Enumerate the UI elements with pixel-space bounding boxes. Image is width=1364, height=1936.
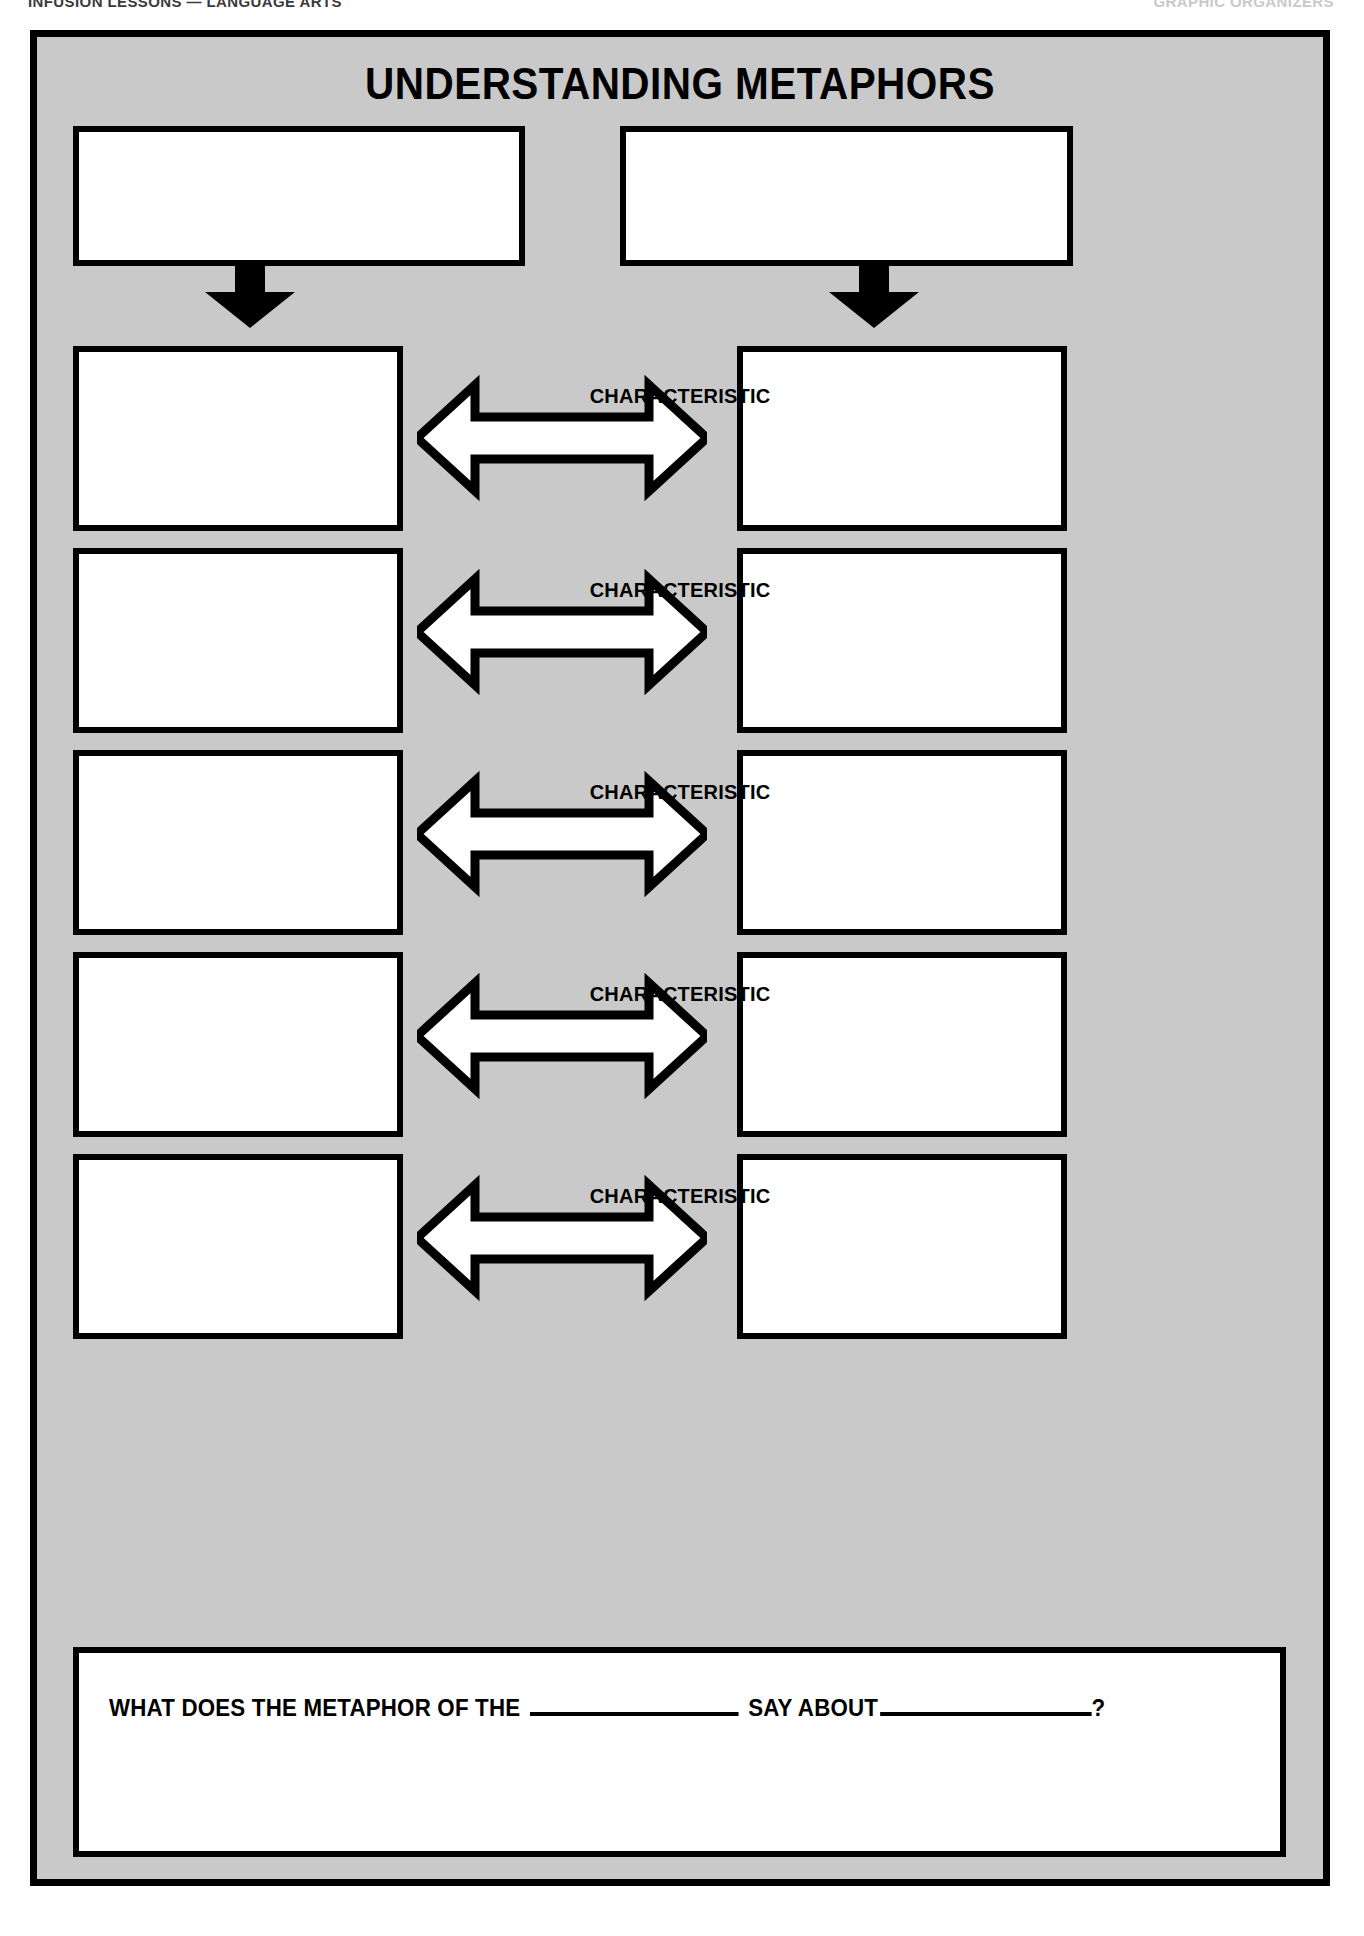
characteristic-connector-1 [417, 371, 707, 506]
running-header-left: INFUSION LESSONS — LANGUAGE ARTS [28, 0, 342, 10]
question-blank-1[interactable] [530, 1711, 739, 1716]
page-title: UNDERSTANDING METAPHORS [88, 59, 1271, 109]
characteristic-connector-4 [417, 969, 707, 1104]
characteristic-connector-3 [417, 767, 707, 902]
question-blank-2[interactable] [880, 1711, 1091, 1716]
characteristic-box-left-3[interactable] [73, 750, 403, 935]
arrow-down-right-icon [829, 266, 919, 328]
running-header: INFUSION LESSONS — LANGUAGE ARTS GRAPHIC… [0, 0, 1364, 14]
characteristic-box-right-3[interactable] [737, 750, 1067, 935]
characteristic-box-left-5[interactable] [73, 1154, 403, 1339]
characteristic-connector-5 [417, 1171, 707, 1306]
question-text-part1: WHAT DOES THE METAPHOR OF THE [109, 1695, 520, 1722]
summary-question-box[interactable]: WHAT DOES THE METAPHOR OF THE SAY ABOUT … [73, 1647, 1286, 1857]
worksheet-panel: UNDERSTANDING METAPHORS CHARACTERISTIC C… [30, 30, 1330, 1886]
characteristic-box-right-5[interactable] [737, 1154, 1067, 1339]
characteristic-connector-2 [417, 565, 707, 700]
characteristic-box-right-4[interactable] [737, 952, 1067, 1137]
top-box-left[interactable] [73, 126, 525, 266]
characteristic-box-right-1[interactable] [737, 346, 1067, 531]
arrow-down-left-icon [205, 266, 295, 328]
characteristic-box-left-4[interactable] [73, 952, 403, 1137]
summary-question-line: WHAT DOES THE METAPHOR OF THE SAY ABOUT … [109, 1695, 1222, 1722]
characteristic-box-left-1[interactable] [73, 346, 403, 531]
characteristic-box-left-2[interactable] [73, 548, 403, 733]
question-text-part3: ? [1092, 1695, 1106, 1722]
characteristic-box-right-2[interactable] [737, 548, 1067, 733]
question-text-part2: SAY ABOUT [748, 1695, 878, 1722]
top-box-right[interactable] [620, 126, 1073, 266]
running-header-right: GRAPHIC ORGANIZERS [1153, 0, 1334, 10]
